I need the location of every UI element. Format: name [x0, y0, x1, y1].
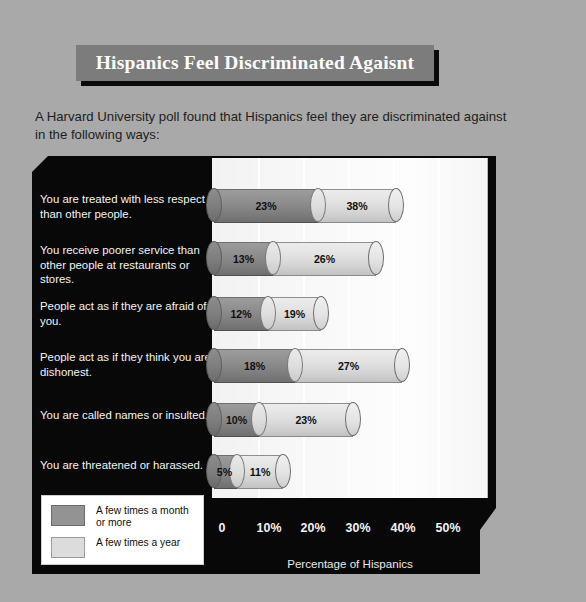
- legend-label-line2: or more: [96, 517, 189, 529]
- bar-value-dark: 12%: [214, 297, 268, 331]
- x-axis-title: Percentage of Hispanics: [222, 557, 478, 570]
- bar-value-dark: 5%: [212, 455, 237, 489]
- bar-value-dark: 23%: [214, 189, 318, 223]
- legend-label-group: A few times a month or more: [96, 505, 189, 529]
- gridline-50: [438, 158, 440, 498]
- bar-value-dark: 18%: [214, 349, 295, 383]
- legend-label-line1: A few times a month: [96, 505, 189, 517]
- xtick-10: 10%: [257, 521, 282, 535]
- category-label: You receive poorer service than other pe…: [40, 243, 212, 287]
- xtick-50: 50%: [436, 521, 461, 535]
- category-label: People act as if they are afraid of you.: [40, 299, 212, 328]
- category-label: People act as if they think you are dish…: [40, 350, 212, 379]
- legend-item-few-times-a-year: A few times a year: [51, 537, 180, 558]
- legend-item-month-or-more: A few times a month or more: [51, 505, 189, 529]
- legend-label-group: A few times a year: [96, 537, 180, 549]
- legend: A few times a month or more A few times …: [41, 495, 204, 565]
- title-box: Hispanics Feel Discriminated Agaisnt: [76, 45, 434, 81]
- legend-label-line1: A few times a year: [96, 537, 180, 549]
- xtick-0: 0: [219, 521, 226, 535]
- bar-value-light: 23%: [259, 403, 353, 437]
- bar-value-dark: 10%: [214, 403, 259, 437]
- bar-value-light: 27%: [295, 349, 402, 383]
- bar-value-light: 19%: [268, 297, 321, 331]
- category-label: You are treated with less respect than o…: [40, 192, 212, 221]
- category-label: You are threatened or harassed.: [40, 458, 212, 473]
- title-banner: Hispanics Feel Discriminated Agaisnt: [76, 45, 434, 81]
- bar-value-light: 26%: [273, 242, 376, 276]
- legend-swatch-light: [51, 537, 85, 558]
- category-label: You are called names or insulted.: [40, 408, 212, 423]
- page-title: Hispanics Feel Discriminated Agaisnt: [96, 52, 415, 74]
- bar-value-light: 38%: [318, 189, 396, 223]
- chart-subtitle: A Harvard University poll found that His…: [35, 108, 515, 144]
- bar-value-light: 11%: [237, 455, 283, 489]
- legend-swatch-dark: [51, 505, 85, 526]
- xtick-20: 20%: [301, 521, 326, 535]
- xtick-40: 40%: [391, 521, 416, 535]
- bar-value-dark: 13%: [214, 242, 273, 276]
- xtick-30: 30%: [346, 521, 371, 535]
